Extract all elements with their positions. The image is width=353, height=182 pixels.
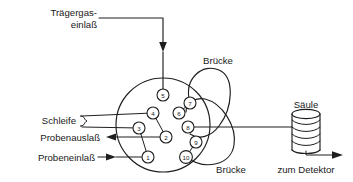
label-carrier-gas-line1: Trägergas- [50, 7, 97, 18]
arrow-right-icon [332, 151, 343, 159]
label-sample-inlet: Probeneinlaß [38, 152, 95, 163]
detector-line-group [306, 151, 343, 159]
port-number-label: 3 [137, 125, 141, 132]
valve-port-4[interactable]: 4 [147, 107, 159, 119]
port-number-label: 5 [161, 92, 165, 99]
valve-port-9[interactable]: 9 [190, 136, 202, 148]
port-number-label: 1 [146, 154, 150, 161]
valve-port-3[interactable]: 3 [133, 122, 145, 134]
port-number-label: 2 [164, 134, 168, 141]
arrow-right-icon [106, 153, 116, 160]
port-number-label: 4 [151, 110, 155, 117]
valve-port-6[interactable]: 6 [173, 107, 185, 119]
label-sample-outlet: Probenauslaß [40, 132, 100, 143]
coil-column-icon [292, 109, 320, 153]
label-to-detector: zum Detektor [277, 164, 335, 175]
loop-bracket [81, 116, 88, 126]
valve-ports-layer: 57468329110 [133, 89, 202, 163]
valve-port-1[interactable]: 1 [142, 151, 154, 163]
arrow-down-icon [159, 42, 167, 52]
label-carrier-gas-line2: einlaß [71, 19, 97, 30]
port-number-label: 6 [177, 110, 181, 117]
valve-port-7[interactable]: 7 [184, 97, 196, 109]
valve-port-2[interactable]: 2 [160, 131, 172, 143]
port-number-label: 7 [188, 100, 192, 107]
valve-port-8[interactable]: 8 [182, 121, 194, 133]
label-column: Säule [294, 99, 319, 110]
carrier-gas-line-group [99, 18, 167, 95]
bridge-loops-group [186, 68, 234, 164]
label-loop: Schleife [42, 115, 76, 126]
port-number-label: 8 [186, 124, 190, 131]
label-bridge-top: Brücke [203, 55, 233, 66]
label-bridge-bottom: Brücke [216, 164, 246, 175]
valve-port-5[interactable]: 5 [157, 89, 169, 101]
arrow-left-icon [106, 133, 116, 140]
port-number-label: 9 [194, 139, 198, 146]
valve-schematic-diagram: 57468329110 Trägergas- einlaß Schleife P… [0, 0, 353, 182]
port-number-label: 10 [183, 154, 190, 161]
valve-port-10[interactable]: 10 [180, 151, 193, 164]
